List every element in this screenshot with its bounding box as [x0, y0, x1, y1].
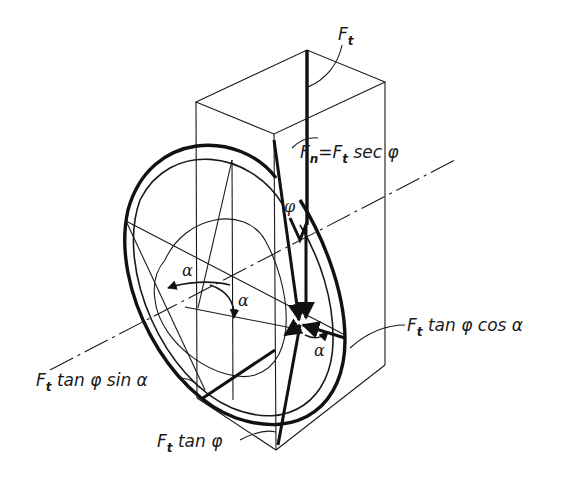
labels: Ft Fn=Ft sec φ Ft tan φ cos α Ft tan φ s… [36, 24, 523, 455]
label-ft-tan: Ft tan φ [157, 431, 223, 455]
box-bottom-right-edge [276, 365, 385, 450]
label-alpha-bottom: α [314, 341, 325, 360]
construction-lines [126, 160, 345, 400]
gear-disk [125, 145, 345, 424]
ft-tan-sin-vector [203, 350, 275, 398]
gear-inner-circle [154, 219, 286, 377]
construction-line-1 [126, 221, 345, 335]
construction-line-4 [232, 160, 233, 400]
alpha-arcs [168, 282, 234, 318]
label-ft-tan-sin: Ft tan φ sin α [36, 370, 148, 394]
box-top-face [196, 50, 385, 134]
gear-axis [50, 160, 455, 370]
label-alpha-center: α [238, 291, 249, 310]
label-ft-tan-cos: Ft tan φ cos α [407, 315, 523, 339]
construction-line-5 [185, 307, 302, 330]
gear-force-diagram: Ft Fn=Ft sec φ Ft tan φ cos α Ft tan φ s… [0, 0, 576, 479]
label-phi: φ [284, 197, 296, 216]
leader-lines [178, 45, 405, 440]
label-ft-top: Ft [338, 24, 355, 48]
phi-wedge [290, 218, 307, 240]
gear-outer-rim [125, 145, 345, 424]
construction-line-3 [198, 160, 232, 308]
leader-ft-top [308, 45, 342, 87]
box-edge-front [274, 134, 276, 450]
leader-ft-tan-cos [350, 325, 405, 348]
label-alpha-left: α [182, 261, 193, 280]
ft-tan-phi-vector [278, 325, 300, 445]
alpha-arc-left [168, 282, 230, 288]
